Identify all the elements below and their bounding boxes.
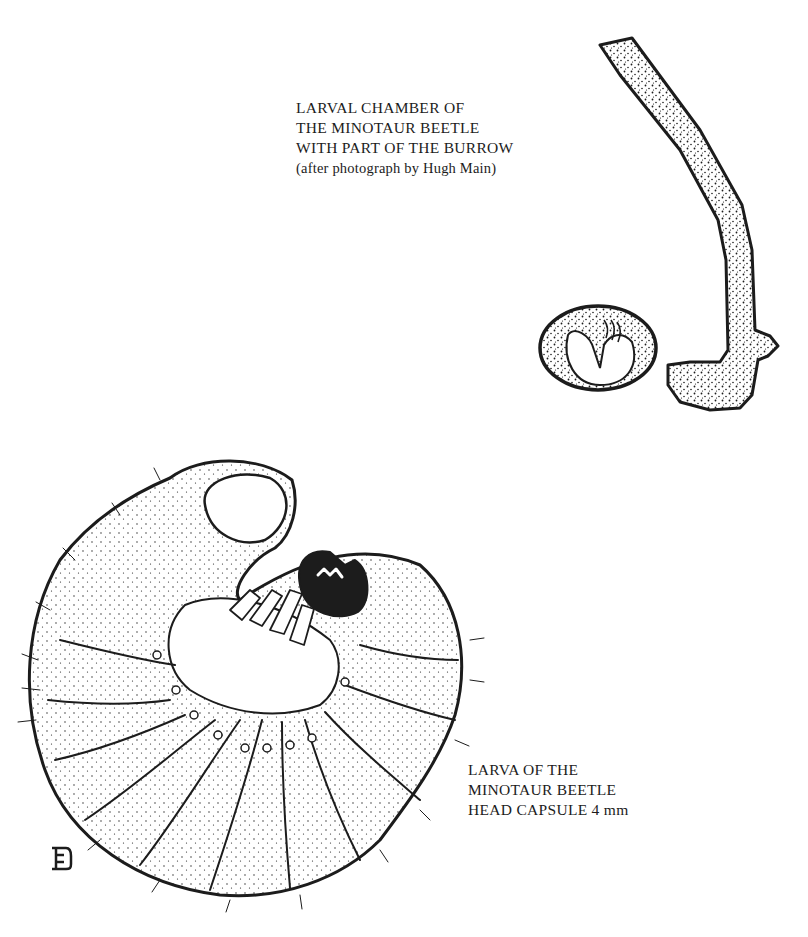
larva-caption-line-3: HEAD CAPSULE 4 mm <box>468 800 629 820</box>
chamber-caption-line-2: THE MINOTAUR BEETLE <box>296 118 514 138</box>
larval-chamber-drawing <box>540 306 656 390</box>
chamber-caption-line-1: LARVAL CHAMBER OF <box>296 98 514 118</box>
larva-caption-line-1: LARVA OF THE <box>468 760 629 780</box>
larva-caption-line-2: MINOTAUR BEETLE <box>468 780 629 800</box>
larva-drawing <box>18 461 484 912</box>
chamber-caption-credit: (after photograph by Hugh Main) <box>296 158 514 178</box>
larva-caption: LARVA OF THE MINOTAUR BEETLE HEAD CAPSUL… <box>468 760 629 820</box>
artist-monogram-icon <box>52 848 71 869</box>
chamber-caption-line-3: WITH PART OF THE BURROW <box>296 138 514 158</box>
chamber-caption: LARVAL CHAMBER OF THE MINOTAUR BEETLE WI… <box>296 98 514 178</box>
